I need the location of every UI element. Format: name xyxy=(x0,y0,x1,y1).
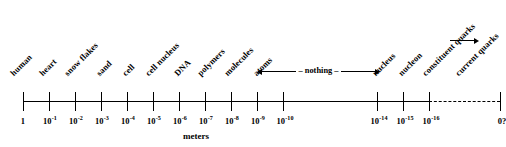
tick-label: 10-3 xyxy=(95,117,109,126)
axis-tick xyxy=(179,92,180,111)
object-label-dna: DNA xyxy=(173,58,192,77)
tick-label: 10-1 xyxy=(43,117,57,126)
axis-line-dashed xyxy=(429,101,500,102)
tick-label-terminal: 0? xyxy=(498,117,506,126)
object-label-molecules: molecules xyxy=(223,46,255,78)
arrow-right-icon xyxy=(375,69,380,75)
tick-label: 10-16 xyxy=(422,117,439,126)
nothing-label: – nothing – xyxy=(296,67,340,75)
nothing-gap-annotation: – nothing – xyxy=(258,66,379,76)
axis-tick xyxy=(75,92,76,111)
object-label-sand: sand xyxy=(95,59,114,78)
tick-label: 10-7 xyxy=(199,117,213,126)
tick-label: 10-2 xyxy=(69,117,83,126)
axis-tick xyxy=(153,92,154,111)
axis-tick xyxy=(49,92,50,111)
nothing-arrow-right xyxy=(341,71,379,72)
tick-label: 10-8 xyxy=(225,117,239,126)
tick-label: 10-15 xyxy=(396,117,413,126)
tick-label: 10-14 xyxy=(370,117,387,126)
axis-line-solid xyxy=(23,101,429,102)
object-label-heart: heart xyxy=(38,57,58,77)
axis-tick xyxy=(257,92,258,111)
tick-label: 10-6 xyxy=(173,117,187,126)
object-label-snow-flakes: snow flakes xyxy=(63,41,100,78)
axis-tick-terminal xyxy=(500,92,501,111)
object-label-nucleon: nucleon xyxy=(397,51,424,78)
axis-tick xyxy=(283,92,284,111)
axis-tick xyxy=(429,92,430,111)
nothing-arrow-left xyxy=(258,71,296,72)
axis-tick xyxy=(127,92,128,111)
object-label-polymers: polymers xyxy=(196,47,227,78)
axis-tick xyxy=(101,92,102,111)
tick-label: 1 xyxy=(21,117,25,126)
axis-tick xyxy=(377,92,378,111)
continuation-arrow xyxy=(450,40,474,41)
axis-tick xyxy=(23,92,24,111)
tick-label: 10-5 xyxy=(147,117,161,126)
axis-tick xyxy=(205,92,206,111)
arrow-left-icon xyxy=(257,69,262,75)
tick-label: 10-9 xyxy=(251,117,265,126)
axis-caption-meters: meters xyxy=(183,131,209,141)
object-label-human: human xyxy=(9,53,34,78)
object-label-cell: cell xyxy=(121,62,136,77)
tick-label: 10-10 xyxy=(276,117,293,126)
axis-tick xyxy=(403,92,404,111)
axis-tick xyxy=(231,92,232,111)
tick-label: 10-4 xyxy=(121,117,135,126)
arrow-right-icon xyxy=(474,38,479,44)
